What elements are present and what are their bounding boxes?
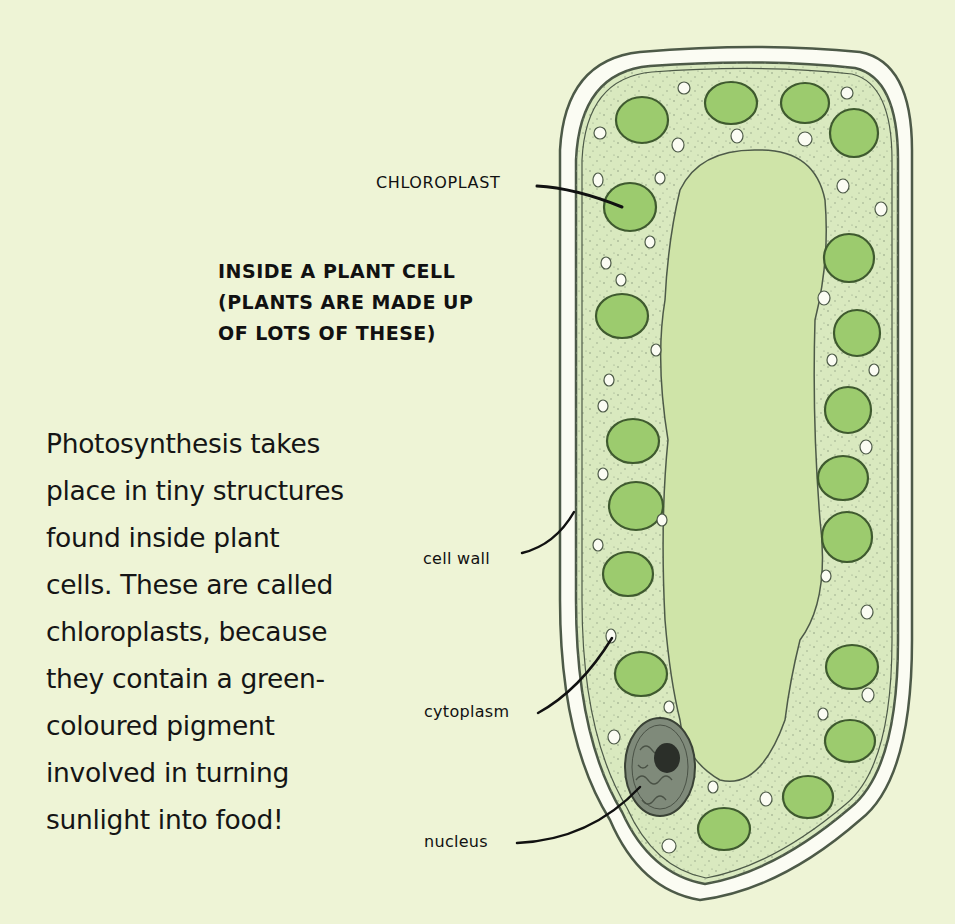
title-line: INSIDE A PLANT CELL — [218, 256, 473, 287]
diagram-title: INSIDE A PLANT CELL (PLANTS ARE MADE UP … — [218, 256, 473, 349]
body-line: Photosynthesis takes — [46, 420, 396, 467]
body-paragraph: Photosynthesis takes place in tiny struc… — [46, 420, 396, 843]
body-line: involved in turning — [46, 749, 396, 796]
title-line: (PLANTS ARE MADE UP — [218, 287, 473, 318]
body-line: found inside plant — [46, 514, 396, 561]
body-line: place in tiny structures — [46, 467, 396, 514]
body-line: coloured pigment — [46, 702, 396, 749]
cytoplasm-label: cytoplasm — [424, 702, 509, 721]
body-line: sunlight into food! — [46, 796, 396, 843]
cell-wall-label: cell wall — [423, 549, 490, 568]
nucleus-label: nucleus — [424, 832, 488, 851]
nucleus — [625, 718, 695, 816]
body-line: cells. These are called — [46, 561, 396, 608]
body-line: chloroplasts, because — [46, 608, 396, 655]
chloroplast-label: CHLOROPLAST — [376, 173, 500, 192]
title-line: OF LOTS OF THESE) — [218, 318, 473, 349]
body-line: they contain a green- — [46, 655, 396, 702]
